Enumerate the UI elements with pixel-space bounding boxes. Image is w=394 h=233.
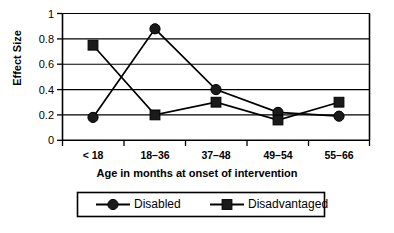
x-tick-label-2: 37–48 xyxy=(186,150,246,161)
data-point-disadvantaged-1 xyxy=(150,110,160,120)
x-tick-label-4: 55–66 xyxy=(309,150,369,161)
series-disadvantaged-line xyxy=(93,45,339,120)
y-axis-title: Effect Size xyxy=(12,8,23,108)
series-disadvantaged xyxy=(88,40,344,125)
legend-disabled-marker-icon xyxy=(108,199,118,209)
legend-label-disadvantaged: Disadvantaged xyxy=(248,198,328,210)
legend-label-disabled: Disabled xyxy=(134,198,181,210)
data-point-disadvantaged-2 xyxy=(211,97,221,107)
axes xyxy=(62,14,370,141)
y-tick-label-3: 0.6 xyxy=(30,59,54,70)
legend-disadvantaged-marker-icon xyxy=(222,200,232,210)
y-tick-label-0: 0 xyxy=(30,135,54,146)
data-point-disadvantaged-0 xyxy=(88,40,98,50)
data-point-disabled-4 xyxy=(334,111,344,121)
y-tick-label-5: 1 xyxy=(30,9,54,20)
data-point-disabled-2 xyxy=(211,85,221,95)
data-point-disabled-1 xyxy=(150,24,160,34)
x-tick-label-0: < 18 xyxy=(63,150,123,161)
line-chart-plot xyxy=(0,0,394,233)
data-point-disadvantaged-3 xyxy=(273,115,283,125)
y-tick-label-4: 0.8 xyxy=(30,34,54,45)
data-point-disabled-0 xyxy=(88,112,98,122)
y-axis-ticks xyxy=(57,14,62,141)
data-point-disadvantaged-4 xyxy=(334,97,344,107)
x-axis-title: Age in months at onset of intervention xyxy=(0,168,394,179)
y-tick-label-1: 0.2 xyxy=(30,110,54,121)
y-tick-label-2: 0.4 xyxy=(30,85,54,96)
x-tick-label-3: 49–54 xyxy=(248,150,308,161)
x-axis-ticks xyxy=(63,140,370,146)
chart-figure: 1 0.8 0.6 0.4 0.2 0 < 18 18–36 37–48 49–… xyxy=(0,0,394,233)
x-tick-label-1: 18–36 xyxy=(125,150,185,161)
